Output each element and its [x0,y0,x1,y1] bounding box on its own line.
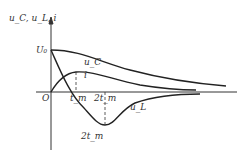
origin-label: O [42,93,49,103]
ul-curve [51,50,200,125]
2tm-below-label: 2t_m [81,131,103,141]
uc-label: u_C [84,57,101,67]
i-label: i [84,70,87,80]
tm-label: t_m [70,93,87,103]
i-curve [51,72,196,92]
ul-label: u_L [130,102,146,112]
y-axis-label: u_C, u_L, i [9,13,56,23]
uc-curve [51,50,226,86]
waveform-diagram [0,0,237,154]
u0-label: U₀ [36,45,47,55]
2tm-label: 2t_m [94,93,116,103]
